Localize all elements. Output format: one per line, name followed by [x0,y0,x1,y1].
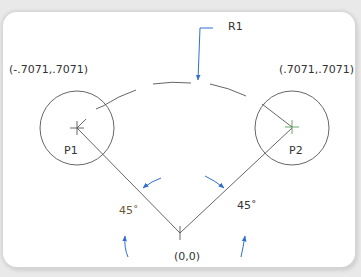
arc-connector-p2 [262,104,292,127]
p2-coordinate-label: (.7071,.7071) [279,63,354,76]
p2-label: P2 [289,144,303,157]
diagram-canvas [0,0,361,277]
angle-arrow-right-upper [205,176,224,188]
radial-line-p2 [180,128,292,233]
radial-line-p1 [77,128,180,233]
arc-r1 [103,82,246,106]
angle-label-right: 45˚ [237,199,257,212]
p1-label: P1 [64,144,78,157]
angle-arrow-left-lower [125,236,128,257]
center-mark-p1 [70,119,86,135]
arc-connector-p1 [96,106,103,109]
angle-label-left: 45˚ [119,204,139,217]
origin-label: (0,0) [174,250,200,263]
angle-arrow-left-upper [143,178,161,188]
p1-coordinate-label: (-.7071,.7071) [9,63,88,76]
r1-leader [198,28,213,80]
r1-label: R1 [228,20,243,33]
angle-arrow-right-lower [241,236,245,257]
